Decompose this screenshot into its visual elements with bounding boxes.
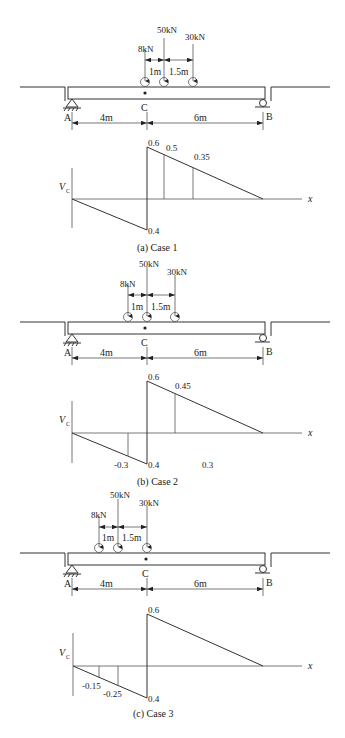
caption: (a) Case 1 [137,242,178,254]
ordinate-0-5: 0.5 [166,143,178,153]
span-label-6m: 6m [194,347,207,358]
influence-line: 0.6 0.5 0.35 0.4 V C x [59,138,313,236]
roller-support-b [255,100,270,108]
caption: (c) Case 3 [133,708,174,720]
label-c: C [141,337,148,348]
load-label-30kn: 30kN [167,267,188,277]
label-a: A [64,347,72,358]
x-axis-label: x [307,427,313,438]
load-label-8kn: 8kN [91,510,107,520]
y-axis-label-sub: C [66,188,70,194]
ordinate-neg-0-25: -0.25 [103,689,122,699]
roller-support-b [255,335,270,343]
span-label-4m: 4m [100,112,113,123]
beam-figure: 8kN 50kN 30kN 1m 1.5m A C B 4m 6m [20,259,330,365]
beam-figure: 8kN 50kN 30kN 1m 1.5m A C B 4m 6m [20,490,330,596]
spacing-label-1m: 1m [131,302,144,312]
beam-figure: 8kN 50kN 30kN 1m 1.5m A C B 4m 6m [20,25,330,130]
influence-line: 0.6 -0.15 -0.25 0.4 V C x [59,605,313,704]
influence-line: 0.6 0.45 -0.3 0.4 0.3 V C x [59,372,313,470]
pin-support-a [63,565,81,577]
x-axis-label: x [307,193,313,204]
right-ground [271,87,330,101]
label-a: A [64,112,72,123]
ordinate-0-6: 0.6 [148,372,160,382]
il-shape [73,614,263,698]
beam [68,322,265,334]
span-label-6m: 6m [194,112,207,123]
pin-support-a [63,334,81,346]
spacing-label-1m: 1m [102,533,115,543]
ordinate-0-6: 0.6 [148,605,160,615]
label-a: A [64,578,72,589]
pin-support-a [63,99,81,111]
extra-label-0-3: 0.3 [202,460,214,470]
span-label-6m: 6m [194,578,207,589]
spacing-label-1m: 1m [149,67,162,77]
il-shape [72,147,263,230]
ordinate-0-45: 0.45 [175,381,191,391]
y-axis-label-sub: C [66,421,70,427]
diagram-canvas: 8kN 50kN 30kN 1m 1.5m A C B 4m 6m [0,0,345,738]
section-point-c [143,91,146,94]
y-axis-label-sub: C [66,654,70,660]
roller-support-b [255,566,270,574]
section-point-c [143,326,146,329]
spacing-label-1-5m: 1.5m [169,67,189,77]
load-label-30kn: 30kN [139,498,160,508]
label-b: B [266,111,273,122]
span-label-4m: 4m [100,347,113,358]
load-label-30kn: 30kN [185,32,206,42]
section-point-c [144,557,147,560]
il-shape [72,381,263,464]
ordinate-0-6: 0.6 [148,138,160,148]
case-2: 8kN 50kN 30kN 1m 1.5m A C B 4m 6m 0 [20,259,330,488]
load-label-8kn: 8kN [120,279,136,289]
load-label-50kn: 50kN [139,259,160,269]
load-label-8kn: 8kN [138,44,154,54]
ordinate-neg-0-4: 0.4 [148,694,160,704]
x-axis-label: x [307,660,313,671]
beam [68,553,265,565]
label-c: C [142,568,149,579]
ordinate-neg-0-15: -0.15 [82,681,101,691]
ordinate-0-35: 0.35 [194,152,210,162]
spacing-label-1-5m: 1.5m [151,302,171,312]
ordinate-neg-0-4: 0.4 [148,460,160,470]
caption: (b) Case 2 [137,476,178,488]
label-b: B [266,346,273,357]
ordinate-neg-0-3: -0.3 [114,460,129,470]
case-1: 8kN 50kN 30kN 1m 1.5m A C B 4m 6m [20,25,330,254]
beam [68,87,265,99]
span-label-4m: 4m [100,578,113,589]
left-ground [20,87,65,101]
load-label-50kn: 50kN [157,25,178,35]
case-3: 8kN 50kN 30kN 1m 1.5m A C B 4m 6m 0 [20,490,330,720]
ordinate-neg-0-4: 0.4 [148,226,160,236]
load-label-50kn: 50kN [110,490,131,500]
label-c: C [141,102,148,113]
spacing-label-1-5m: 1.5m [122,533,142,543]
label-b: B [266,577,273,588]
